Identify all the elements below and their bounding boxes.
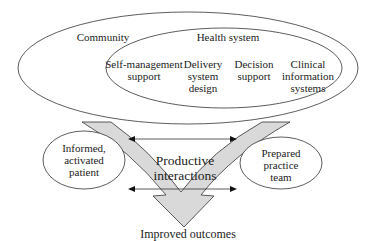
component-delivery-system-design: Delivery system design xyxy=(181,58,225,94)
outcome-label: Improved outcomes xyxy=(128,228,248,240)
interactions-label: Productive interactions xyxy=(140,153,230,183)
component-clinical-information-systems: Clinical information systems xyxy=(280,58,336,94)
chronic-care-model-diagram: Community Health system Self-management … xyxy=(0,0,368,241)
community-label: Community xyxy=(68,31,138,43)
component-decision-support: Decision support xyxy=(232,58,276,82)
patient-label: Informed, activated patient xyxy=(54,142,114,178)
team-label: Prepared practice team xyxy=(251,147,311,183)
health-system-label: Health system xyxy=(188,31,268,43)
component-self-management: Self-management support xyxy=(104,58,184,82)
diagram-shapes xyxy=(0,0,368,241)
upper-double-arrow xyxy=(128,136,237,142)
